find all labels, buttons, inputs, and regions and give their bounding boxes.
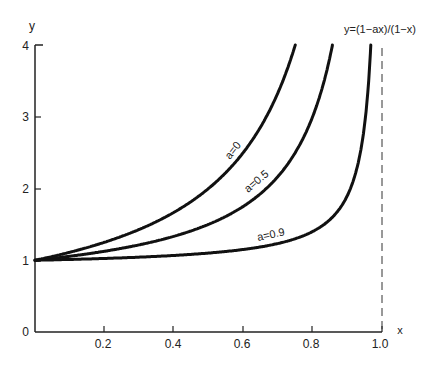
- x-tick-label-0.6: 0.6: [234, 337, 251, 351]
- y-tick-label-0: 0: [22, 325, 29, 339]
- y-tick-label-1: 1: [22, 254, 29, 268]
- x-tick-label-1.0: 1.0: [372, 337, 389, 351]
- x-tick-label-0.2: 0.2: [95, 337, 112, 351]
- formula-label: y=(1−ax)/(1−x): [344, 23, 416, 35]
- x-tick-label-0.4: 0.4: [165, 337, 182, 351]
- x-tick-label-0.8: 0.8: [303, 337, 320, 351]
- x-axis-label: x: [397, 324, 403, 336]
- curve-a05: [35, 45, 332, 260]
- y-tick-label-3: 3: [22, 110, 29, 124]
- y-ticks: [35, 117, 41, 261]
- chart: y 4 3 2 1 0 0.2 0.4 0.6 0.8 1.0 x y=(1−a…: [0, 0, 446, 367]
- y-tick-label-2: 2: [22, 182, 29, 196]
- y-tick-label-4: 4: [22, 39, 29, 53]
- curve-a0: [35, 45, 295, 260]
- x-ticks: [104, 326, 382, 332]
- curve-label-a09: a=0.9: [256, 225, 286, 243]
- y-axis-label: y: [29, 19, 35, 33]
